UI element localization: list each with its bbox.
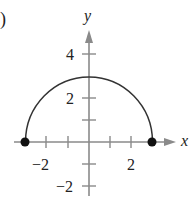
right-endpoint-dot xyxy=(148,138,157,147)
left-endpoint-dot xyxy=(21,138,30,147)
y-tick-label-4: 4 xyxy=(66,46,74,63)
y-axis-label: y xyxy=(82,7,92,25)
graph: ) −2 2 4 2 −2 x y xyxy=(0,0,191,204)
x-tick-label-neg2: −2 xyxy=(32,156,49,173)
x-axis-label: x xyxy=(180,132,188,149)
x-axis-arrow-icon xyxy=(164,138,176,146)
y-tick-label-2: 2 xyxy=(66,90,74,107)
y-tick-label-neg2: −2 xyxy=(56,178,73,195)
y-axis-arrow-icon xyxy=(85,30,93,43)
x-tick-label-2: 2 xyxy=(127,156,135,173)
figure-label: ) xyxy=(0,9,6,30)
